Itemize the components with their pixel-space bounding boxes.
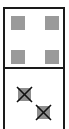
- crossed-pip: [37, 106, 50, 119]
- domino-divider: [3, 67, 65, 69]
- pip: [45, 50, 59, 64]
- x-mark-icon: [16, 86, 33, 103]
- x-mark-icon: [35, 104, 52, 121]
- crossed-pip: [18, 88, 31, 101]
- pip: [11, 50, 25, 64]
- pip: [45, 16, 59, 30]
- pip: [11, 16, 25, 30]
